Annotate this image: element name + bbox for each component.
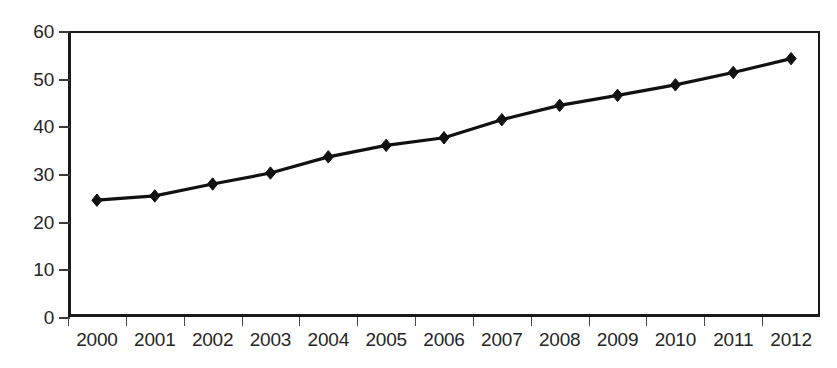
data-point-2001	[150, 190, 160, 202]
data-point-2011	[728, 66, 738, 78]
data-point-2000	[92, 194, 102, 206]
series-markers	[92, 52, 796, 206]
data-point-2006	[439, 132, 449, 144]
data-point-2004	[323, 151, 333, 163]
line-chart: 0102030405060 20002001200220032004200520…	[0, 0, 837, 368]
data-point-2005	[381, 139, 391, 151]
data-point-2010	[670, 79, 680, 91]
series-line	[97, 59, 791, 201]
data-point-2002	[208, 178, 218, 190]
data-point-2003	[265, 167, 275, 179]
chart-screenshot: 0102030405060 20002001200220032004200520…	[0, 0, 837, 368]
data-series-layer	[0, 0, 837, 368]
data-point-2012	[786, 52, 796, 64]
data-point-2007	[497, 113, 507, 125]
data-point-2008	[555, 99, 565, 111]
data-point-2009	[612, 89, 622, 101]
